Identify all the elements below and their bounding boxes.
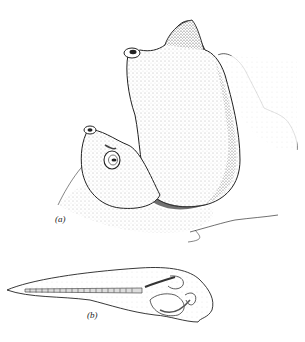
figure-canvas: (a) (b) [0,0,305,342]
tunicate-larva [7,268,213,323]
panel-label-a: (a) [55,214,66,224]
illustration [0,0,305,342]
panel-label-b: (b) [87,310,98,320]
